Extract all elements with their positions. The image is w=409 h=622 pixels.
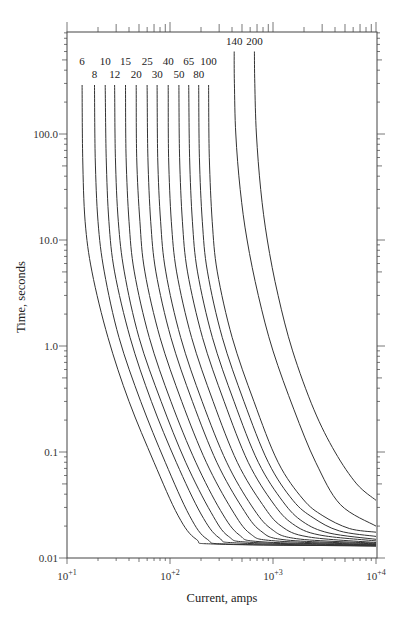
curve-label-20: 20 (131, 68, 143, 80)
x-axis-title: Current, amps (187, 591, 258, 605)
y-tick-label: 100.0 (33, 128, 58, 140)
curve-label-10: 10 (100, 55, 112, 67)
curve-15 (126, 85, 377, 545)
curve-label-100: 100 (200, 55, 217, 67)
x-tick-label: 10+1 (57, 568, 77, 582)
time-current-chart: 6101525406510081220305080140200 10+110+2… (0, 0, 409, 622)
y-tick-label: 1.0 (44, 340, 58, 352)
curve-label-50: 50 (173, 68, 185, 80)
y-tick-label: 0.01 (39, 552, 58, 564)
curve-labels: 6101525406510081220305080140200 (79, 35, 263, 80)
curve-label-200: 200 (246, 35, 263, 47)
curve-10 (105, 85, 376, 546)
y-tick-labels: 0.010.11.010.0100.0 (33, 128, 58, 564)
y-axis-title: Time, seconds (14, 261, 28, 333)
curve-label-140: 140 (226, 35, 243, 47)
curve-50 (179, 85, 376, 541)
curves (82, 52, 376, 546)
x-tick-label: 10+2 (160, 568, 180, 582)
curve-label-25: 25 (142, 55, 154, 67)
curve-label-8: 8 (92, 68, 98, 80)
curve-label-15: 15 (120, 55, 132, 67)
curve-20 (136, 85, 376, 545)
curve-label-80: 80 (193, 68, 205, 80)
curve-label-65: 65 (183, 55, 195, 67)
curve-100 (209, 85, 376, 532)
curve-200 (254, 52, 376, 501)
y-tick-label: 10.0 (39, 234, 59, 246)
curve-label-12: 12 (109, 68, 120, 80)
curve-label-40: 40 (163, 55, 175, 67)
curve-label-30: 30 (152, 68, 164, 80)
x-tick-label: 10+4 (366, 568, 386, 582)
x-tick-label: 10+3 (263, 568, 283, 582)
x-tick-labels: 10+110+210+310+4 (57, 568, 386, 582)
curve-label-6: 6 (79, 55, 85, 67)
y-tick-label: 0.1 (44, 446, 58, 458)
